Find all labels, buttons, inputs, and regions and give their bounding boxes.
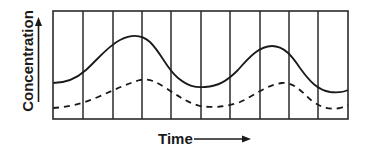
concentration-time-chart: Concentration Time <box>0 0 365 150</box>
x-axis-arrow-icon <box>194 136 251 143</box>
vertical-grid-lines <box>83 11 318 119</box>
y-axis-label: Concentration <box>19 10 36 112</box>
x-axis-label: Time <box>158 130 193 147</box>
y-axis-arrow-icon <box>35 17 42 102</box>
